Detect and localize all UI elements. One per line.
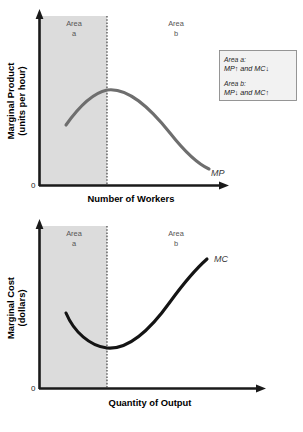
legend-box-group: Area a: MP↑ and MC↓ Area b: MP↓ and MC↑ [220,51,297,101]
legend-area-b-heading: Area b: [223,80,246,87]
x-axis-arrow-bottom [256,385,266,393]
y-axis-title-line2-bottom: (dollars) [16,290,27,327]
x-axis-title-bottom: Quantity of Output [109,397,192,408]
mp-curve-label: MP [211,168,225,178]
area-b-label-line2-top: b [174,29,178,38]
x-axis-arrow-top [219,182,229,190]
origin-label-bottom: 0 [31,384,36,393]
area-b-label-line1-bottom: Area [168,229,185,238]
y-axis-title-line1-top: Marginal Product [5,63,16,140]
area-a-shading-top [40,16,107,186]
marginal-product-svg: 0 Area a Area b MP Marginal Product (uni… [0,0,303,212]
legend-area-b-body: MP↓ and MC↑ [224,88,269,97]
area-b-label-line1-top: Area [168,19,185,28]
y-axis-title-line1-bottom: Marginal Cost [5,277,16,339]
y-axis-arrow-top [36,9,44,19]
mc-curve-label: MC [214,254,228,264]
area-b-label-line2-bottom: b [174,239,178,248]
area-a-label-line1-bottom: Area [66,229,83,238]
y-axis-title-line2-top: (units per hour) [16,66,27,135]
legend-area-a-body: MP↑ and MC↓ [224,64,269,73]
marginal-product-chart-panel: 0 Area a Area b MP Marginal Product (uni… [0,0,303,212]
economics-figure: 0 Area a Area b MP Marginal Product (uni… [0,0,303,432]
marginal-cost-svg: 0 Area a Area b MC Marginal Cost (dollar… [0,212,303,432]
x-axis-title-top: Number of Workers [88,193,175,204]
area-a-shading-bottom [40,226,107,389]
y-axis-arrow-bottom [36,219,44,229]
origin-label-top: 0 [31,181,36,190]
marginal-cost-chart-panel: 0 Area a Area b MC Marginal Cost (dollar… [0,212,303,432]
area-a-label-line1-top: Area [66,19,83,28]
legend-area-a-heading: Area a: [223,56,246,63]
